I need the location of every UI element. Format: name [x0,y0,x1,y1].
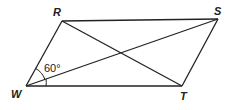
vertex-label-s: S [214,5,222,17]
diagonal-rt [62,21,182,86]
vertex-label-w: W [11,88,23,100]
side-rs [62,19,218,21]
vertex-label-t: T [180,90,188,102]
angle-label-60: 60° [44,62,61,74]
vertex-label-r: R [53,6,61,18]
parallelogram-figure: R S T W 60° [0,0,241,110]
diagonal-ws [26,19,218,86]
diagram-canvas: R S T W 60° [0,0,241,110]
